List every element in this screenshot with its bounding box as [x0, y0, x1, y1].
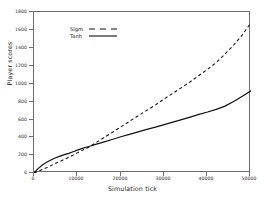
y-tick-label: 1800	[15, 9, 27, 14]
legend-label-sigm: Sigm	[70, 26, 85, 32]
series-canvas	[34, 12, 251, 173]
series-line-sigm	[34, 23, 251, 173]
y-tick-label: 1400	[15, 45, 27, 50]
x-tick-label: 10000	[68, 176, 83, 181]
y-tick-label: 1000	[15, 81, 27, 86]
y-tick-label: 800	[18, 99, 27, 104]
x-tick-label: 40000	[198, 176, 213, 181]
legend-entry-tanh: Tanh	[70, 32, 124, 39]
x-axis-label: Simulation tick	[0, 185, 265, 192]
y-tick-label: 0	[24, 170, 27, 175]
plot-area: Sigm Tanh	[33, 11, 250, 172]
x-tick-label: 0	[31, 176, 34, 181]
y-tick-label: 200	[18, 152, 27, 157]
x-tick-label: 50000	[241, 176, 256, 181]
y-tick-label: 400	[18, 134, 27, 139]
series-line-tanh	[34, 91, 251, 173]
chart-figure: 0 200 400 600 800 1000 1200 1400 1600 18…	[0, 0, 265, 201]
legend-entry-sigm: Sigm	[70, 25, 124, 32]
y-tick-label: 600	[18, 117, 27, 122]
x-tick-label: 30000	[155, 176, 170, 181]
legend-swatch-solid	[88, 33, 118, 39]
legend-label-tanh: Tanh	[70, 33, 85, 39]
y-tick-label: 1600	[15, 27, 27, 32]
x-tick-label: 20000	[112, 176, 127, 181]
y-tick-label: 1200	[15, 63, 27, 68]
chart-legend: Sigm Tanh	[70, 24, 124, 40]
y-axis-label: Player scores	[6, 24, 13, 104]
legend-swatch-dashed	[88, 26, 118, 32]
